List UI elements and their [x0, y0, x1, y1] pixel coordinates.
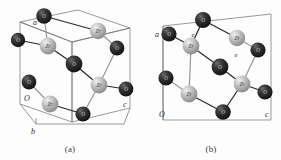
atom-label: O [263, 89, 267, 95]
atom-o: O [75, 106, 90, 121]
axis-label-c: c [265, 110, 269, 119]
atom-group-b: O O Zr Zr O [158, 12, 272, 120]
panel-a-diagram: O Zr O Zr O [0, 0, 140, 140]
atom-zr: Zr [91, 77, 108, 94]
atom-o: O [119, 82, 134, 97]
figure-root: O Zr O Zr O [0, 0, 281, 160]
atom-label: O [42, 13, 46, 19]
atom-o: O [250, 42, 265, 57]
atom-zr: Zr [229, 30, 245, 46]
atom-zr: Zr [181, 86, 198, 103]
atom-zr: Zr [40, 38, 57, 55]
atom-label: O [16, 37, 20, 43]
atom-o: O [215, 104, 231, 120]
atom-o: O [110, 41, 125, 56]
atom-o: O [161, 26, 176, 41]
atom-label: O [124, 86, 128, 92]
site-label-e: e [234, 51, 237, 59]
axis-label-a: a [33, 18, 37, 27]
atom-o: O [257, 84, 272, 99]
atom-label: O [164, 75, 168, 81]
atom-o: O [212, 59, 229, 76]
axis-label-origin: O [159, 110, 165, 119]
atom-label: O [72, 61, 76, 67]
axis-label-c: c [123, 100, 127, 109]
panel-a-caption: (a) [0, 144, 140, 154]
atom-label: O [81, 111, 85, 117]
atom-o: O [36, 8, 52, 24]
atom-o: O [195, 12, 211, 28]
atom-o: O [158, 70, 173, 85]
atom-label: O [27, 79, 31, 85]
site-label-e: e [191, 31, 194, 39]
atom-o: O [22, 75, 37, 90]
atom-zr: Zr [90, 23, 106, 39]
axis-label-origin: O [24, 94, 30, 103]
atom-zr: Zr [183, 38, 200, 55]
axis-label-b: b [31, 127, 35, 136]
atom-o: O [66, 56, 83, 73]
atom-label: O [167, 31, 171, 37]
atom-label: O [218, 64, 222, 70]
atom-o: O [11, 33, 25, 47]
panel-b-diagram: O O Zr Zr O [141, 0, 281, 140]
atom-zr: Zr [42, 96, 59, 113]
panel-b: O O Zr Zr O [141, 0, 281, 160]
atom-zr: Zr [234, 76, 251, 93]
atom-label: O [221, 109, 225, 115]
atom-label: O [256, 47, 260, 53]
atom-label: O [115, 45, 119, 51]
panel-b-caption: (b) [141, 144, 281, 154]
axis-label-a: a [155, 30, 159, 39]
atom-label: O [201, 17, 205, 23]
panel-a: O Zr O Zr O [0, 0, 140, 160]
